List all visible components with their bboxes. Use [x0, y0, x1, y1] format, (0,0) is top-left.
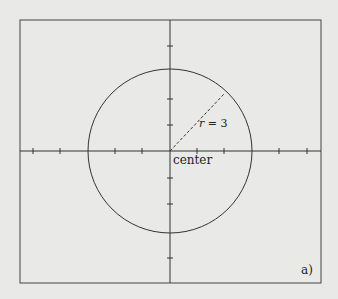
circle-diagram: [0, 0, 338, 299]
center-label: center: [173, 153, 212, 167]
panel-label: a): [301, 263, 313, 277]
radius-label: r = 3: [199, 117, 227, 130]
